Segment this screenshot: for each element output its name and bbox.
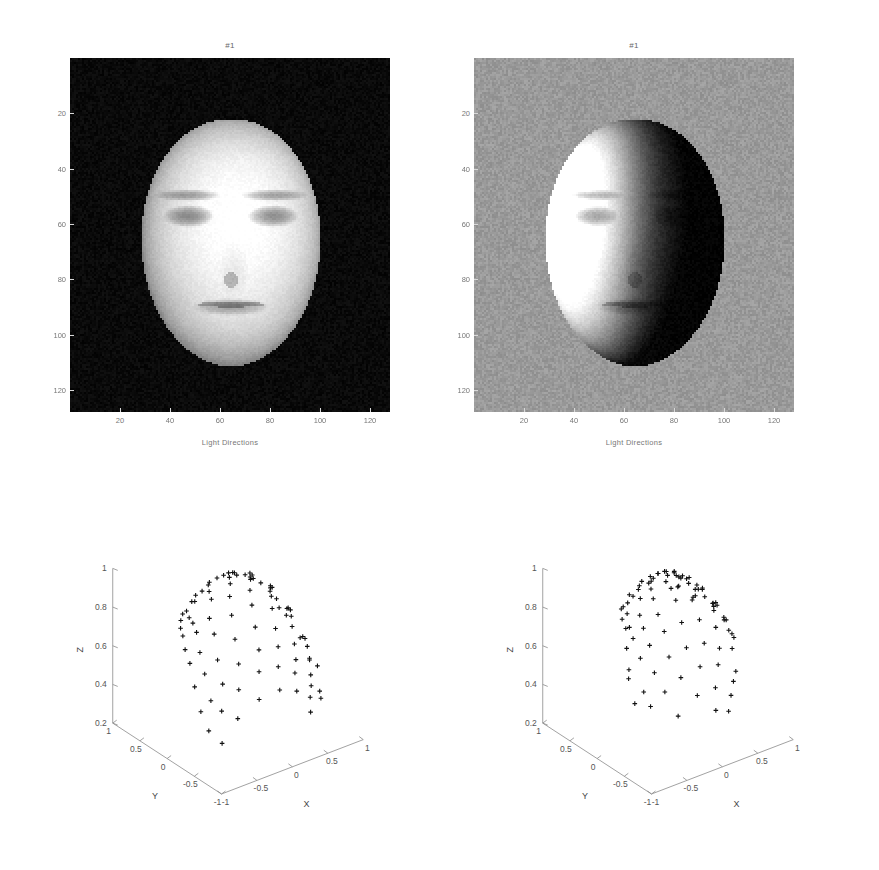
scatter-point: [293, 671, 298, 676]
scatter-point: [690, 598, 695, 603]
scatter-point: [669, 586, 674, 591]
z-tick-label: 0.8: [95, 602, 107, 612]
scatter-point: [227, 575, 232, 580]
x-tick-label: 100: [718, 416, 731, 425]
y-tick-mark: [70, 113, 74, 114]
scatter-point: [257, 669, 262, 674]
y-tick-mark: [113, 720, 117, 723]
scatter-point: [187, 615, 192, 620]
x-tick-mark: [370, 408, 371, 412]
scatter-point: [641, 690, 646, 695]
x-tick-label: 0.5: [756, 756, 768, 766]
scatter-point: [674, 598, 679, 603]
x-tick-label: -1: [222, 797, 230, 807]
y-tick-label: -1: [644, 797, 652, 807]
z-tick-mark: [543, 607, 548, 609]
x-tick-label: 40: [166, 416, 174, 425]
scatter-point: [193, 593, 198, 598]
y-tick-label: 20: [58, 109, 66, 118]
scatter-point: [308, 710, 313, 715]
scatter-point: [234, 573, 239, 578]
scatter-point: [192, 685, 197, 690]
y-tick-label: 0.5: [560, 744, 572, 754]
scatter-point: [207, 616, 212, 621]
scatter-point: [250, 603, 255, 608]
x-tick-label: 120: [364, 416, 377, 425]
scatter-point: [194, 630, 199, 635]
x-tick-mark: [270, 408, 271, 412]
scatter-point: [227, 594, 232, 599]
scatter-point: [220, 741, 225, 746]
y-tick-label: 1: [536, 726, 541, 736]
scatter-point: [633, 701, 638, 706]
scatter-point: [220, 682, 225, 687]
y-tick-label: 120: [457, 385, 470, 394]
scatter-point: [702, 594, 707, 599]
z-tick-label: 1: [532, 563, 537, 573]
scatter-point: [207, 589, 212, 594]
scatter-point: [257, 697, 262, 702]
y-axis-label: Y: [152, 791, 158, 801]
scatter-point: [212, 632, 217, 637]
scatter-point: [269, 594, 274, 599]
scatter-point: [710, 601, 715, 606]
z-tick-label: 1: [102, 563, 107, 573]
scatter-point: [695, 693, 700, 698]
y-tick-label: 60: [58, 219, 66, 228]
scatter-point: [179, 618, 184, 623]
scatter-point: [192, 599, 197, 604]
scatter-point: [184, 609, 189, 614]
x-tick-mark: [524, 408, 525, 412]
scatter-point: [667, 655, 672, 660]
panel-top-left: #1 Light Directions 20406080100120204060…: [70, 58, 390, 412]
scatter-point: [713, 625, 718, 630]
y-tick-mark: [570, 738, 574, 741]
scatter-point: [641, 626, 646, 631]
scatter-point: [221, 573, 226, 578]
scatter-point: [713, 685, 718, 690]
scatter3d-bottom-left: 0.20.40.60.81Z10.50-0.5-1Y-1-0.500.51X: [10, 500, 440, 870]
x-tick-mark: [170, 408, 171, 412]
scatter-point: [229, 613, 234, 618]
face-image-top-right: [474, 58, 794, 412]
x-tick-label: 120: [768, 416, 781, 425]
x-tick-label: 0: [294, 770, 299, 780]
x-tick-label: 100: [314, 416, 327, 425]
scatter-point: [183, 647, 188, 652]
scatter-point: [684, 646, 689, 651]
z-tick-label: 0.2: [525, 718, 537, 728]
x-tick-label: 20: [520, 416, 528, 425]
scatter-point: [638, 656, 643, 661]
x-tick-label: 0: [724, 770, 729, 780]
scatter-point: [625, 601, 630, 606]
x-tick-mark: [648, 791, 652, 794]
scatter-point: [620, 617, 625, 622]
scatter-point: [276, 664, 281, 669]
x-tick-mark: [724, 408, 725, 412]
scatter-point: [294, 657, 299, 662]
y-tick-label: 60: [462, 219, 470, 228]
scatter-point: [226, 571, 231, 576]
scatter-point: [289, 614, 294, 619]
scatter-point: [199, 709, 204, 714]
scatter-point: [638, 596, 643, 601]
scatter-point: [273, 626, 278, 631]
scatter-point: [180, 612, 185, 617]
scatter-point: [233, 637, 238, 642]
scatter-point: [639, 579, 644, 584]
x-tick-mark: [624, 408, 625, 412]
scatter-point: [656, 612, 661, 617]
scatter-point: [188, 661, 193, 666]
scatter-point: [729, 693, 734, 698]
scatter-point: [695, 583, 700, 588]
x-tick-label: 1: [795, 743, 800, 753]
y-tick-mark: [70, 335, 74, 336]
scatter-point: [236, 662, 241, 667]
scatter3d-bottom-right: 0.20.40.60.81Z10.50-0.5-1Y-1-0.500.51X: [440, 500, 870, 870]
scatter-point: [259, 581, 264, 586]
z-tick-label: 0.8: [525, 602, 537, 612]
scatter-point: [215, 658, 220, 663]
scatter-point: [319, 696, 324, 701]
y-tick-mark: [474, 169, 478, 170]
y-tick-mark: [194, 773, 198, 776]
